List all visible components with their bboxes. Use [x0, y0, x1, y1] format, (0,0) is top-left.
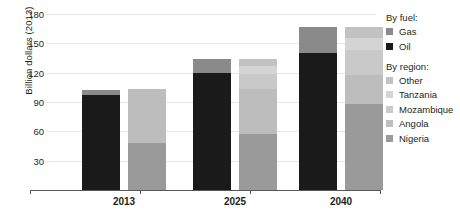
bar-segment-gas [299, 27, 337, 53]
bar-segment-oil [193, 73, 231, 190]
y-axis-tick-label: 30 [33, 157, 44, 167]
bar-2013-by-region [128, 89, 166, 190]
legend-label: Nigeria [399, 133, 429, 144]
bar-segment-mozambique [239, 74, 277, 90]
y-axis-tick-label: 60 [33, 127, 44, 137]
chart-container: Billion dollars (2013) 306090120150180 2… [0, 0, 460, 218]
x-axis-label-2013: 2013 [79, 196, 169, 207]
legend-swatch-mozambique-icon [386, 106, 393, 113]
bar-2013-by-fuel [82, 90, 120, 190]
chart-legend: By fuel: GasOil By region: OtherTanzania… [386, 12, 460, 147]
y-axis-tick-label: 90 [33, 98, 44, 108]
x-axis-label-2040: 2040 [296, 196, 386, 207]
legend-group-fuel: GasOil [386, 26, 460, 52]
x-axis-line [30, 190, 380, 191]
bar-segment-tanzania [345, 38, 383, 51]
bar-2040-by-region [345, 27, 383, 190]
y-axis-tick-label: 150 [28, 39, 44, 49]
legend-swatch-tanzania-icon [386, 91, 393, 98]
legend-label: Tanzania [399, 89, 437, 100]
bar-2025-by-fuel [193, 59, 231, 190]
legend-swatch-gas-icon [386, 28, 393, 35]
bar-2025-by-region [239, 59, 277, 190]
legend-group-region: OtherTanzaniaMozambiqueAngolaNigeria [386, 75, 460, 144]
bar-segment-mozambique [345, 50, 383, 74]
legend-swatch-oil-icon [386, 43, 393, 50]
legend-item-oil[interactable]: Oil [386, 41, 460, 52]
bar-segment-oil [82, 95, 120, 190]
x-axis-tick [140, 190, 141, 194]
legend-item-nigeria[interactable]: Nigeria [386, 133, 460, 144]
gridline [46, 14, 376, 15]
legend-heading-region: By region: [386, 61, 460, 72]
legend-item-tanzania[interactable]: Tanzania [386, 89, 460, 100]
x-axis-tick [380, 190, 381, 194]
x-axis-tick [30, 190, 31, 194]
bar-segment-angola [345, 75, 383, 104]
x-axis-tick [250, 190, 251, 194]
bar-segment-oil [299, 53, 337, 190]
legend-item-mozambique[interactable]: Mozambique [386, 104, 460, 115]
y-axis-tick-labels: 306090120150180 [14, 14, 44, 190]
legend-label: Angola [399, 118, 429, 129]
y-axis-tick-label: 120 [28, 69, 44, 79]
legend-label: Gas [399, 26, 416, 37]
bar-segment-nigeria [128, 143, 166, 190]
legend-item-gas[interactable]: Gas [386, 26, 460, 37]
legend-label: Mozambique [399, 104, 453, 115]
bar-segment-nigeria [345, 104, 383, 190]
legend-label: Other [399, 75, 423, 86]
bar-segment-angola [128, 89, 166, 143]
plot-area [46, 14, 376, 190]
bar-segment-angola [239, 89, 277, 134]
legend-heading-fuel: By fuel: [386, 12, 460, 23]
y-axis-tick-label: 180 [28, 10, 44, 20]
legend-item-other[interactable]: Other [386, 75, 460, 86]
bar-segment-tanzania [239, 66, 277, 74]
bar-segment-other [345, 27, 383, 38]
legend-swatch-nigeria-icon [386, 135, 393, 142]
x-axis-label-2025: 2025 [190, 196, 280, 207]
bar-segment-gas [193, 59, 231, 73]
legend-label: Oil [399, 41, 411, 52]
bar-2040-by-fuel [299, 27, 337, 190]
legend-swatch-angola-icon [386, 120, 393, 127]
legend-swatch-other-icon [386, 77, 393, 84]
bar-segment-nigeria [239, 134, 277, 190]
bar-segment-other [239, 59, 277, 66]
legend-item-angola[interactable]: Angola [386, 118, 460, 129]
